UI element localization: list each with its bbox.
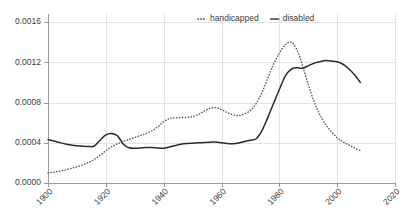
y-axis-tick-label: 0.0000 <box>15 177 41 187</box>
chart-canvas: 0.00000.00040.00080.00120.00161900192019… <box>0 0 408 218</box>
legend-label-disabled[interactable]: disabled <box>283 13 315 23</box>
series-line-disabled <box>48 60 360 148</box>
series-line-handicapped <box>48 42 360 173</box>
y-axis-tick-label: 0.0008 <box>15 97 41 107</box>
y-axis-tick-label: 0.0004 <box>15 137 41 147</box>
y-axis-tick-label: 0.0016 <box>15 16 41 26</box>
x-axis-tick-label: 1980 <box>265 186 286 207</box>
x-axis-tick-label: 1920 <box>92 186 113 207</box>
y-axis-tick-label: 0.0012 <box>15 57 41 67</box>
legend-label-handicapped[interactable]: handicapped <box>210 13 259 23</box>
ngram-line-chart: 0.00000.00040.00080.00120.00161900192019… <box>0 0 408 218</box>
x-axis-tick-label: 2000 <box>323 186 344 207</box>
x-axis-tick-label: 2020 <box>381 186 402 207</box>
x-axis-tick-label: 1900 <box>34 186 55 207</box>
x-axis-tick-label: 1960 <box>207 186 228 207</box>
x-axis-tick-label: 1940 <box>150 186 171 207</box>
